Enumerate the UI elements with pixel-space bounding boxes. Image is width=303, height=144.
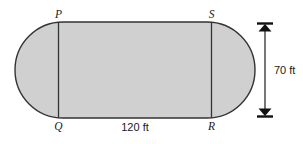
dimension-label-height: 70 ft xyxy=(274,64,295,76)
diagram-canvas: P S Q R 120 ft 70 ft xyxy=(0,0,303,144)
stadium-shape xyxy=(15,22,255,118)
geometry-figure: P S Q R 120 ft 70 ft xyxy=(0,0,303,144)
vertex-label-Q: Q xyxy=(54,120,63,132)
arrowhead-down-icon xyxy=(259,109,272,117)
dimension-line-height xyxy=(257,24,273,117)
vertex-label-R: R xyxy=(207,120,215,132)
arrowhead-up-icon xyxy=(259,24,272,32)
vertex-label-P: P xyxy=(54,8,62,20)
dimension-label-width: 120 ft xyxy=(121,121,149,133)
vertex-label-S: S xyxy=(209,8,215,20)
